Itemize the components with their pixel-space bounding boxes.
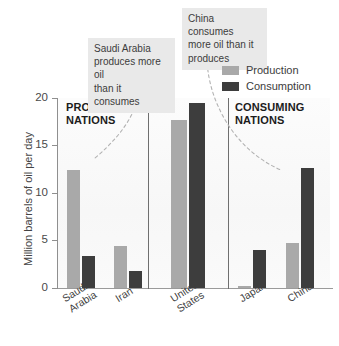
y-tick-label-20: 20 bbox=[35, 92, 48, 104]
panel-heading-consuming-line2: NATIONS bbox=[235, 114, 304, 127]
callout-saudi-arabia-line1: Saudi Arabia bbox=[94, 42, 169, 55]
legend-swatch-consumption-icon bbox=[222, 82, 239, 91]
callout-china-line1: China consumes bbox=[188, 12, 261, 38]
panel-heading-consuming: CONSUMING NATIONS bbox=[235, 101, 304, 128]
y-tick-label-15: 15 bbox=[35, 139, 48, 151]
y-tick-label-10: 10 bbox=[35, 187, 48, 199]
bar-saudi-arabia-production[interactable] bbox=[67, 170, 80, 288]
callout-china-line2: more oil than it bbox=[188, 38, 261, 51]
bar-united-states-production[interactable] bbox=[171, 120, 187, 288]
bar-china-production[interactable] bbox=[286, 243, 299, 288]
legend-swatch-production-icon bbox=[222, 66, 239, 75]
chart-figure: 20 15 10 5 0 Million barrels of oil per … bbox=[0, 0, 339, 346]
legend-label-consumption: Consumption bbox=[246, 80, 311, 92]
legend-label-production: Production bbox=[246, 64, 299, 76]
y-tick-label-5: 5 bbox=[42, 234, 48, 246]
legend-item-production[interactable]: Production bbox=[222, 62, 311, 78]
bar-china-consumption[interactable] bbox=[301, 168, 314, 288]
bar-united-states-consumption[interactable] bbox=[189, 103, 205, 288]
callout-saudi-arabia: Saudi Arabia produces more oil than it c… bbox=[88, 38, 175, 113]
callout-saudi-arabia-line3: than it consumes bbox=[94, 82, 169, 108]
panel-heading-consuming-line1: CONSUMING bbox=[235, 101, 304, 114]
y-tick-mark-0 bbox=[52, 288, 58, 289]
callout-china: China consumes more oil than it produces bbox=[182, 8, 267, 70]
bar-iran-consumption[interactable] bbox=[129, 271, 142, 288]
legend-item-consumption[interactable]: Consumption bbox=[222, 78, 311, 94]
y-tick-label-0: 0 bbox=[42, 282, 48, 294]
chart-legend: Production Consumption bbox=[222, 62, 311, 94]
panel-heading-producing-line2: NATIONS bbox=[66, 114, 134, 127]
y-axis-title: Million barrels of oil per day bbox=[22, 109, 34, 289]
callout-saudi-arabia-line2: produces more oil bbox=[94, 55, 169, 81]
bar-iran-production[interactable] bbox=[114, 246, 127, 288]
